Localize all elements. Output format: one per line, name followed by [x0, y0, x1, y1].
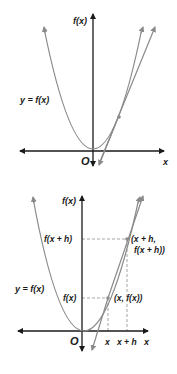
derivative-diagram: f(x) x O y = f(x) f(x) x O y = f(x) f(x … [0, 0, 177, 374]
x-tick-x: x [104, 337, 111, 347]
x-tick-xh: x + h [116, 337, 137, 347]
bottom-x-axis-label: x [143, 337, 150, 347]
top-tangent-line-down [99, 118, 118, 165]
y-tick-fxh: f(x + h) [44, 234, 72, 244]
bottom-parabola [33, 198, 139, 331]
point-label-xh-line1: (x + h, [131, 234, 156, 244]
top-y-axis-label: f(x) [73, 16, 87, 26]
bottom-y-axis-label: f(x) [62, 196, 76, 206]
bottom-origin-label: O [70, 335, 79, 347]
top-x-axis-label: x [162, 157, 169, 167]
top-origin-label: O [81, 155, 90, 167]
bottom-curve-label: y = f(x) [14, 284, 44, 294]
point-label-xh-line2: f(x + h)) [134, 245, 165, 255]
bottom-graph: f(x) x O y = f(x) f(x + h) f(x) x x + h … [14, 196, 165, 351]
point-x-fx [106, 296, 110, 300]
top-tangent-point [117, 115, 121, 119]
y-tick-fx: f(x) [63, 293, 76, 303]
point-label-x-fx: (x, f(x)) [114, 293, 143, 303]
top-graph: f(x) x O y = f(x) [19, 14, 169, 167]
point-xh-fxh [125, 237, 129, 241]
top-curve-label: y = f(x) [19, 95, 49, 105]
